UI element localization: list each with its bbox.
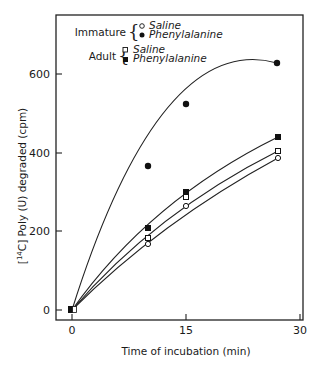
curve-immature-phenylalanine — [72, 60, 277, 310]
x-tick-15: 15 — [179, 324, 193, 337]
y-axis-label: [14C] Poly (U) degraded (cpm) — [16, 108, 28, 264]
series-adult-saline — [146, 149, 281, 241]
legend-brace-icon: { — [128, 21, 139, 42]
y-tick-600: 600 — [29, 68, 50, 81]
series-immature-phenylalanine — [145, 60, 280, 169]
legend-open-square-icon — [123, 48, 128, 53]
legend-filled-square-icon — [123, 57, 128, 62]
series-immature-saline — [145, 155, 280, 246]
fitted-curves — [72, 60, 278, 310]
y-tick-400: 400 — [29, 147, 50, 160]
x-tick-0: 0 — [69, 324, 76, 337]
legend-group-immature: Immature — [75, 26, 126, 38]
legend-filled-circle-icon — [140, 33, 145, 38]
y-tick-0: 0 — [43, 304, 50, 317]
x-axis-label: Time of incubation (min) — [120, 345, 250, 357]
series-adult-phenylalanine — [145, 134, 281, 231]
legend-group-adult: Adult — [89, 50, 116, 62]
zero-points — [68, 306, 77, 313]
x-tick-30: 30 — [293, 324, 307, 337]
y-axis — [56, 74, 62, 310]
curve-immature-saline — [72, 158, 278, 310]
x-axis — [72, 314, 300, 320]
y-tick-200: 200 — [29, 225, 50, 238]
legend-open-circle-icon — [140, 24, 145, 29]
chart: 0 200 400 600 0 15 30 Time of incubation… — [0, 0, 322, 366]
legend-immature-phenylalanine: Phenylalanine — [149, 28, 223, 40]
legend: Immature { Saline Phenylalanine Adult { … — [75, 19, 223, 66]
legend-adult-phenylalanine: Phenylalanine — [133, 52, 207, 64]
